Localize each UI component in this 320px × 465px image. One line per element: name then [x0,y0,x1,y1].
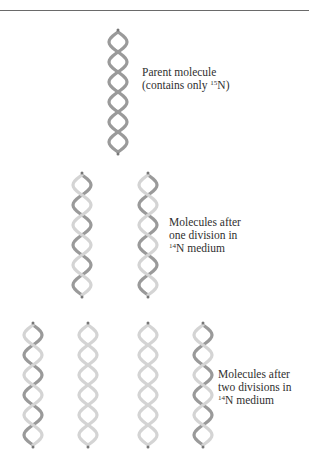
dna-molecule [79,322,97,449]
axis-end-dot [87,446,90,449]
light-strand [139,175,157,295]
dna-molecule [73,172,91,299]
axis-end-dot [32,446,35,449]
dna-molecule [194,322,212,449]
axis-end-dot [147,446,150,449]
parent-label-line2: (contains only 15N) [142,79,230,92]
axis-end-dot [117,29,120,32]
light-strand [79,325,97,445]
second-division-label: Molecules after two divisions in 14N med… [218,368,291,407]
axis-end-dot [202,322,205,325]
first-division-label-line1: Molecules after [169,216,241,229]
axis-end-dot [202,446,205,449]
axis-end-dot [81,296,84,299]
first-division-label: Molecules after one division in 14N medi… [169,216,241,255]
axis-end-dot [147,172,150,175]
axis-end-dot [87,322,90,325]
parent-label-line1: Parent molecule [142,66,230,79]
axis-end-dot [147,322,150,325]
dna-molecule [139,172,157,299]
parent-molecule-label: Parent molecule (contains only 15N) [142,66,230,92]
first-division-label-line2: one division in [169,229,241,242]
heavy-strand [109,32,127,152]
light-strand [139,325,157,445]
light-strand [194,325,212,445]
axis-end-dot [32,322,35,325]
axis-end-dot [81,172,84,175]
axis-end-dot [117,153,120,156]
first-division-label-line3: 14N medium [169,242,241,255]
second-division-label-line2: two divisions in [218,381,291,394]
light-strand [24,325,42,445]
second-division-label-line3: 14N medium [218,394,291,407]
light-strand [73,175,91,295]
second-division-label-line1: Molecules after [218,368,291,381]
dna-molecule [139,322,157,449]
dna-molecule [24,322,42,449]
dna-molecule [109,29,127,156]
axis-end-dot [147,296,150,299]
